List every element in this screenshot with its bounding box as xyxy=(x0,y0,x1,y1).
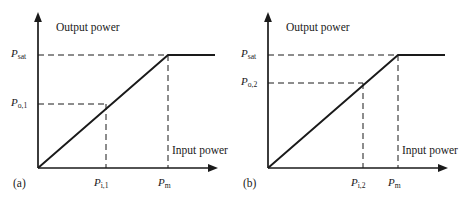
panel-b-plot xyxy=(236,0,472,202)
p-m-symbol: P xyxy=(388,176,395,188)
p-sat-symbol: P xyxy=(241,47,248,59)
panel-caption-a: (a) xyxy=(13,178,26,190)
p-m-symbol: P xyxy=(158,176,165,188)
p-o-1-symbol: P xyxy=(11,96,18,108)
y-axis-title: Output power xyxy=(286,22,350,34)
p-m-subscript: m xyxy=(165,181,171,190)
p-m-subscript: m xyxy=(395,181,401,190)
p-i-1-symbol: P xyxy=(94,176,101,188)
p-i-1-subscript: i,1 xyxy=(101,181,109,190)
x-tick-label-p-i-2: Pi,2 xyxy=(351,177,366,188)
p-o-1-subscript: o,1 xyxy=(18,101,28,110)
y-axis xyxy=(34,12,42,168)
x-axis xyxy=(268,164,448,172)
y-tick-label-p-sat: Psat xyxy=(11,48,26,59)
y-tick-label-p-sat: Psat xyxy=(241,48,256,59)
p-sat-symbol: P xyxy=(11,47,18,59)
y-axis-title: Output power xyxy=(56,22,120,34)
panel-b: Output power Input power Psat Po,2 Pi,2 … xyxy=(236,0,472,202)
y-tick-label-p-o-1: Po,1 xyxy=(11,97,27,108)
x-axis-title: Input power xyxy=(402,145,458,157)
x-tick-label-p-m: Pm xyxy=(388,177,401,188)
y-axis xyxy=(264,12,272,168)
panel-caption-b: (b) xyxy=(243,178,256,190)
p-o-2-symbol: P xyxy=(241,75,248,87)
p-i-2-symbol: P xyxy=(351,176,358,188)
panel-a: Output power Input power Psat Po,1 Pi,1 … xyxy=(0,0,236,202)
figure-two-panel-amplifier-transfer-curves: Output power Input power Psat Po,1 Pi,1 … xyxy=(0,0,472,202)
p-o-2-subscript: o,2 xyxy=(248,80,258,89)
x-tick-label-p-i-1: Pi,1 xyxy=(94,177,109,188)
x-axis-title: Input power xyxy=(172,145,228,157)
x-tick-label-p-m: Pm xyxy=(158,177,171,188)
y-tick-label-p-o-2: Po,2 xyxy=(241,76,257,87)
x-axis xyxy=(38,164,218,172)
p-sat-subscript: sat xyxy=(18,52,26,61)
p-sat-subscript: sat xyxy=(248,52,256,61)
p-i-2-subscript: i,2 xyxy=(358,181,366,190)
